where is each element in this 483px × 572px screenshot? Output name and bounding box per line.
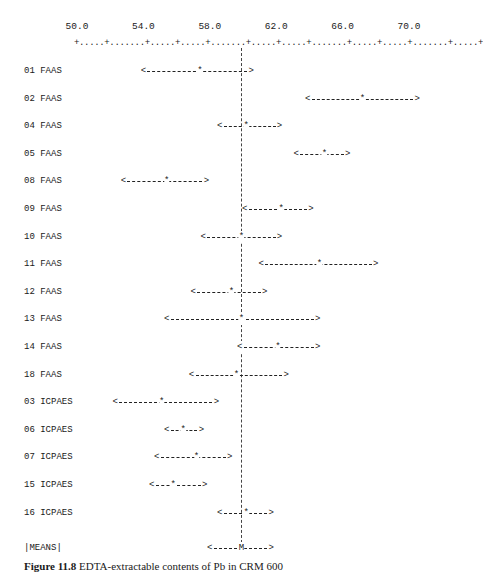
lower-bound-marker: < <box>259 258 264 270</box>
upper-bound-marker: > <box>277 231 282 243</box>
grand-mean-marker: M <box>239 542 244 554</box>
mean-marker: * <box>239 313 244 325</box>
x-tick-label: 50.0 <box>66 21 89 32</box>
confidence-interval: <>* <box>0 396 475 408</box>
confidence-interval: <>* <box>0 120 475 132</box>
lower-bound-marker: < <box>154 451 159 463</box>
mean-marker: * <box>239 231 244 243</box>
interval-line <box>224 126 276 127</box>
mean-marker: * <box>159 396 164 408</box>
upper-bound-marker: > <box>269 542 274 554</box>
upper-bound-marker: > <box>214 396 219 408</box>
confidence-interval: <>* <box>0 507 475 519</box>
mean-marker: * <box>360 93 365 105</box>
confidence-interval: <>* <box>0 231 475 243</box>
lower-bound-marker: < <box>164 424 169 436</box>
figure-caption: Figure 11.8 EDTA-extractable contents of… <box>24 560 283 572</box>
lower-bound-marker: < <box>293 148 298 160</box>
confidence-interval: <>* <box>0 369 475 381</box>
caption-text: EDTA-extractable contents of Pb in CRM 6… <box>79 560 283 572</box>
confidence-interval: <>* <box>0 203 475 215</box>
lower-bound-marker: < <box>237 341 242 353</box>
mean-marker: * <box>197 65 202 77</box>
mean-marker: * <box>194 451 199 463</box>
lower-bound-marker: < <box>112 396 117 408</box>
mean-marker: * <box>317 258 322 270</box>
lower-bound-marker: < <box>189 369 194 381</box>
lower-bound-marker: < <box>207 542 212 554</box>
upper-bound-marker: > <box>202 479 207 491</box>
upper-bound-marker: > <box>262 286 267 298</box>
upper-bound-marker: > <box>249 65 254 77</box>
mean-marker: * <box>234 369 239 381</box>
caption-label: Figure 11.8 <box>24 560 76 572</box>
confidence-interval: <>* <box>0 93 475 105</box>
upper-bound-marker: > <box>227 451 232 463</box>
upper-bound-marker: > <box>415 93 420 105</box>
lower-bound-marker: < <box>121 175 126 187</box>
lower-bound-marker: < <box>200 231 205 243</box>
lower-bound-marker: < <box>305 93 310 105</box>
upper-bound-marker: > <box>283 369 288 381</box>
x-tick-label: 54.0 <box>132 21 155 32</box>
upper-bound-marker: > <box>199 424 204 436</box>
lower-bound-marker: < <box>141 65 146 77</box>
confidence-interval: <>* <box>0 479 475 491</box>
confidence-interval: <>* <box>0 258 475 270</box>
lower-bound-marker: < <box>190 286 195 298</box>
mean-marker: * <box>322 148 327 160</box>
upper-bound-marker: > <box>315 313 320 325</box>
confidence-interval: <>* <box>0 286 475 298</box>
mean-marker: * <box>181 424 186 436</box>
upper-bound-marker: > <box>269 507 274 519</box>
mean-marker: * <box>278 203 283 215</box>
interval-line <box>156 485 201 486</box>
lower-bound-marker: < <box>217 120 222 132</box>
confidence-interval: <>* <box>0 424 475 436</box>
lower-bound-marker: < <box>242 203 247 215</box>
lower-bound-marker: < <box>149 479 154 491</box>
confidence-interval: <>* <box>0 341 475 353</box>
x-tick-label: 70.0 <box>398 21 421 32</box>
x-tick-label: 62.0 <box>265 21 288 32</box>
upper-bound-marker: > <box>204 175 209 187</box>
upper-bound-marker: > <box>308 203 313 215</box>
confidence-interval: <>* <box>0 451 475 463</box>
x-axis-ruler: +.....+.......+.....+.....+.......+.....… <box>74 38 483 48</box>
x-tick-label: 58.0 <box>198 21 221 32</box>
means-interval: <>M <box>0 542 475 554</box>
confidence-interval: <>* <box>0 175 475 187</box>
upper-bound-marker: > <box>345 148 350 160</box>
confidence-interval: <>* <box>0 148 475 160</box>
mean-marker: * <box>244 120 249 132</box>
confidence-interval: <>* <box>0 313 475 325</box>
mean-marker: * <box>164 175 169 187</box>
lower-bound-marker: < <box>217 507 222 519</box>
confidence-interval: <>* <box>0 65 475 77</box>
upper-bound-marker: > <box>277 120 282 132</box>
lower-bound-marker: < <box>164 313 169 325</box>
mean-marker: * <box>275 341 280 353</box>
x-tick-label: 66.0 <box>331 21 354 32</box>
mean-marker: * <box>171 479 176 491</box>
upper-bound-marker: > <box>373 258 378 270</box>
mean-marker: * <box>229 286 234 298</box>
interval-line <box>119 402 212 403</box>
mean-marker: * <box>244 507 249 519</box>
upper-bound-marker: > <box>315 341 320 353</box>
